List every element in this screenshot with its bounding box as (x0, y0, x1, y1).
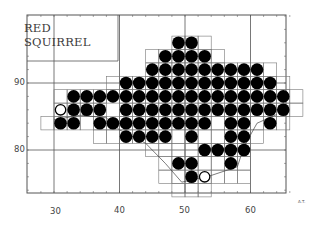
grid-cell (54, 90, 67, 103)
record-dot-filled (172, 157, 185, 170)
record-dot-filled (238, 144, 251, 157)
record-dot-filled (80, 104, 93, 117)
x-tick-60: 60 (245, 205, 256, 215)
record-dot-filled (159, 50, 172, 63)
record-dot-filled (198, 77, 211, 90)
record-dot-filled (133, 117, 146, 130)
record-dot-filled (185, 171, 198, 184)
record-dot-filled (120, 130, 133, 143)
record-dot-filled (211, 77, 224, 90)
record-dot-filled (120, 77, 133, 90)
record-dot-filled (94, 90, 107, 103)
record-dot-filled (185, 157, 198, 170)
record-dot-filled (238, 77, 251, 90)
record-dot-filled (146, 130, 159, 143)
grid-cell (237, 157, 250, 170)
record-dot-filled (172, 90, 185, 103)
record-dot-filled (133, 104, 146, 117)
record-dot-filled (211, 63, 224, 76)
record-dot-filled (225, 117, 238, 130)
grid-cell (211, 130, 224, 143)
grid-cell (198, 157, 211, 170)
record-dot-filled (146, 77, 159, 90)
record-dot-filled (277, 90, 290, 103)
record-dot-filled (238, 117, 251, 130)
grid-cell (290, 103, 303, 116)
record-dot-filled (211, 144, 224, 157)
grid-cell (106, 130, 119, 143)
record-dot-filled (120, 117, 133, 130)
record-dot-filled (133, 130, 146, 143)
grid-cell (93, 130, 106, 143)
grid-cell (185, 184, 198, 197)
record-dot-filled (225, 104, 238, 117)
record-dot-filled (172, 77, 185, 90)
record-dot-filled (238, 104, 251, 117)
record-dot-filled (120, 90, 133, 103)
grid-cell (277, 117, 290, 130)
map-title-line1: RED (24, 21, 51, 35)
record-dot-filled (185, 117, 198, 130)
record-dot-filled (185, 37, 198, 50)
record-dot-filled (264, 104, 277, 117)
record-dot-filled (238, 130, 251, 143)
record-dot-filled (133, 77, 146, 90)
record-dot-filled (159, 130, 172, 143)
grid-cell (264, 63, 277, 76)
record-dot-filled (107, 117, 120, 130)
record-dot-filled (251, 63, 264, 76)
record-dot-filled (146, 104, 159, 117)
record-dot-filled (185, 130, 198, 143)
record-dot-filled (185, 63, 198, 76)
y-tick-90: 90 (14, 77, 25, 87)
record-dot-filled (198, 90, 211, 103)
record-dot-filled (225, 77, 238, 90)
record-dot-filled (264, 90, 277, 103)
record-dot-filled (159, 63, 172, 76)
record-dot-filled (159, 104, 172, 117)
record-dot-filled (211, 90, 224, 103)
record-dot-filled (251, 90, 264, 103)
grid-cell (172, 130, 185, 143)
record-dot-filled (94, 117, 107, 130)
grid-cell (237, 170, 250, 183)
record-dot-filled (185, 77, 198, 90)
record-dot-filled (225, 157, 238, 170)
record-dot-filled (277, 104, 290, 117)
record-dot-filled (172, 50, 185, 63)
record-dot-filled (185, 50, 198, 63)
grid-cell (41, 117, 54, 130)
record-dot-filled (146, 117, 159, 130)
record-dot-filled (54, 117, 67, 130)
record-dot-filled (172, 63, 185, 76)
author-mark: A.T. (298, 199, 305, 204)
record-dot-filled (198, 104, 211, 117)
record-dot-filled (120, 104, 133, 117)
record-dot-filled (225, 63, 238, 76)
record-dot-filled (185, 104, 198, 117)
record-dot-filled (172, 104, 185, 117)
record-dot-filled (251, 77, 264, 90)
record-dot-filled (225, 90, 238, 103)
record-dot-filled (185, 90, 198, 103)
record-dot-filled (198, 117, 211, 130)
grid-cell (80, 117, 93, 130)
record-dot-filled (238, 90, 251, 103)
record-dot-filled (198, 63, 211, 76)
record-dot-filled (94, 104, 107, 117)
grid-cell (198, 184, 211, 197)
record-dot-filled (67, 90, 80, 103)
grid-cell (159, 170, 172, 183)
record-dot-filled (80, 90, 93, 103)
record-dot-filled (251, 104, 264, 117)
record-dot-filled (198, 50, 211, 63)
x-tick-50: 50 (179, 205, 190, 215)
record-dot-filled (238, 63, 251, 76)
record-dot-filled (159, 77, 172, 90)
record-dot-filled (107, 90, 120, 103)
record-dot-filled (264, 77, 277, 90)
grid-cell (290, 90, 303, 103)
x-tick-40: 40 (114, 205, 125, 215)
record-dot-filled (172, 117, 185, 130)
record-dot-open (199, 172, 209, 182)
